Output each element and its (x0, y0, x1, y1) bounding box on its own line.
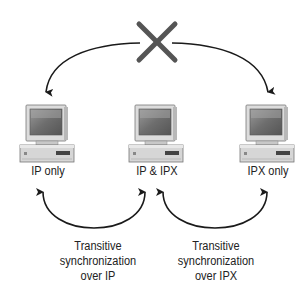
caption-line: Transitive (54, 239, 142, 254)
caption-sync-ipx: Transitive synchronization over IPX (172, 239, 260, 284)
caption-sync-ip: Transitive synchronization over IP (54, 239, 142, 284)
sync-arc-ipx (163, 192, 267, 228)
blocked-arc-left (46, 43, 140, 92)
node-label-ip-only: IP only (22, 164, 75, 178)
sync-arc-ip (43, 192, 145, 228)
blocked-arc-right (172, 43, 268, 92)
caption-line: synchronization (172, 254, 260, 269)
node-label-ipx-only: IPX only (240, 164, 296, 178)
caption-line: over IPX (172, 269, 260, 284)
caption-line: Transitive (172, 239, 260, 254)
x-mark-icon (139, 24, 175, 60)
computer-icon-ipx-only (240, 105, 294, 162)
diagram-canvas (0, 0, 307, 286)
caption-line: over IP (54, 269, 142, 284)
computer-icon-ip-ipx (129, 105, 183, 162)
computer-icon-ip-only (20, 105, 74, 162)
caption-line: synchronization (54, 254, 142, 269)
node-label-ip-ipx: IP & IPX (129, 164, 185, 178)
